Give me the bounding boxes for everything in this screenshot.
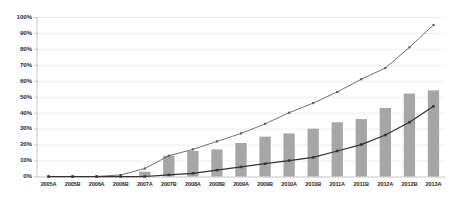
line-marker — [264, 162, 267, 165]
y-axis-label: 80% — [0, 46, 32, 52]
line-marker — [119, 175, 122, 178]
bar — [380, 108, 391, 177]
line-marker — [360, 143, 363, 146]
x-axis-label: 2007B — [157, 182, 181, 188]
x-axis-label: 2006A — [85, 182, 109, 188]
bar — [283, 133, 294, 176]
line-marker — [144, 167, 146, 169]
line-marker — [168, 155, 170, 157]
y-axis-label: 50% — [0, 94, 32, 100]
line-marker — [408, 121, 411, 124]
y-axis-label: 70% — [0, 62, 32, 68]
line-marker — [360, 78, 362, 80]
lower-line-series — [47, 105, 434, 178]
y-axis-label: 30% — [0, 125, 32, 131]
x-axis-label: 2013A — [421, 182, 445, 188]
bar — [211, 149, 222, 176]
line-marker — [144, 175, 147, 178]
y-axis-label: 0% — [0, 173, 32, 179]
line-marker — [216, 140, 218, 142]
line-marker — [47, 175, 50, 178]
line-marker — [71, 175, 74, 178]
x-axis-label: 2012B — [397, 182, 421, 188]
line-marker — [216, 169, 219, 172]
y-axis-label: 20% — [0, 141, 32, 147]
line-marker — [192, 148, 194, 150]
x-axis-label: 2010A — [277, 182, 301, 188]
x-axis-label: 2012A — [373, 182, 397, 188]
y-axis-label: 60% — [0, 78, 32, 84]
line-marker — [192, 172, 195, 175]
y-axis-label: 40% — [0, 110, 32, 116]
x-axis-label: 2008A — [181, 182, 205, 188]
bar — [404, 94, 415, 177]
line-marker — [384, 67, 386, 69]
line-marker — [168, 174, 171, 177]
bar-series — [139, 90, 439, 176]
x-axis-label: 2009A — [229, 182, 253, 188]
y-axis-label: 100% — [0, 14, 32, 20]
y-axis-label: 90% — [0, 30, 32, 36]
chart-plot-area — [0, 0, 451, 202]
line-marker — [95, 175, 98, 178]
y-axis-label: 10% — [0, 157, 32, 163]
x-axis-label: 2011B — [349, 182, 373, 188]
bar — [356, 119, 367, 176]
x-axis-label: 2006B — [109, 182, 133, 188]
x-axis-label: 2010B — [301, 182, 325, 188]
x-axis-label: 2011A — [325, 182, 349, 188]
line-marker — [336, 150, 339, 153]
x-axis-label: 2009B — [253, 182, 277, 188]
x-axis-label: 2005A — [37, 182, 61, 188]
x-axis-label: 2007A — [133, 182, 157, 188]
chart-container: 0%10%20%30%40%50%60%70%80%90%100%2005A20… — [0, 0, 451, 202]
line-marker — [312, 102, 314, 104]
line-marker — [432, 24, 434, 26]
line-marker — [432, 105, 435, 108]
line-marker — [336, 91, 338, 93]
line-marker — [408, 46, 410, 48]
line-marker — [264, 123, 266, 125]
bar — [308, 129, 319, 177]
bar — [428, 90, 439, 176]
line-marker — [240, 132, 242, 134]
bar — [259, 137, 270, 177]
x-axis-label: 2008B — [205, 182, 229, 188]
line-marker — [288, 159, 291, 162]
bar — [163, 156, 174, 177]
x-axis-label: 2005B — [61, 182, 85, 188]
line-marker — [312, 156, 315, 159]
bar — [235, 143, 246, 176]
line-marker — [240, 166, 243, 169]
line-marker — [384, 134, 387, 137]
line-marker — [288, 112, 290, 114]
